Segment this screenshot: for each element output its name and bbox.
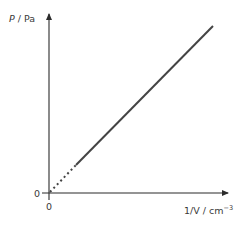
extrapolation-dotted-line bbox=[50, 165, 76, 192]
data-line bbox=[76, 26, 213, 165]
x-axis-label: 1/V / cm−3 bbox=[184, 204, 233, 216]
y-axis-label: P / Pa bbox=[9, 13, 35, 24]
x-origin-tick-label: 0 bbox=[46, 201, 52, 212]
chart-canvas: P / Pa 1/V / cm−3 0 0 bbox=[0, 0, 244, 226]
y-origin-tick-label: 0 bbox=[34, 188, 40, 199]
